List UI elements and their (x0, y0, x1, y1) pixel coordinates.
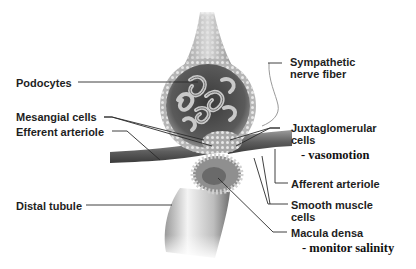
label-efferent-arteriole: Efferent arteriole (16, 126, 104, 138)
label-macula-densa: Macula densa (291, 227, 363, 239)
label-sympathetic-nerve-fiber: Sympathetic nerve fiber (290, 56, 355, 80)
label-juxtaglomerular-cells: Juxtaglomerular cells (291, 122, 377, 146)
label-smooth-muscle-cells: Smooth muscle cells (291, 199, 373, 223)
label-line-1: Sympathetic (290, 56, 355, 68)
label-line-2: cells (291, 134, 377, 146)
label-podocytes: Podocytes (16, 77, 72, 89)
label-distal-tubule: Distal tubule (16, 200, 82, 212)
label-mesangial-cells: Mesangial cells (16, 111, 97, 123)
note-vasomotion: - vasomotion (301, 149, 369, 162)
label-line-1: Smooth muscle (291, 199, 373, 211)
jga-diagram: Podocytes Mesangial cells Efferent arter… (0, 0, 416, 269)
label-line-2: nerve fiber (290, 68, 355, 80)
label-afferent-arteriole: Afferent arteriole (291, 178, 380, 190)
note-monitor-salinity: - monitor salinity (302, 242, 394, 255)
label-line-2: cells (291, 211, 373, 223)
label-line-1: Juxtaglomerular (291, 122, 377, 134)
